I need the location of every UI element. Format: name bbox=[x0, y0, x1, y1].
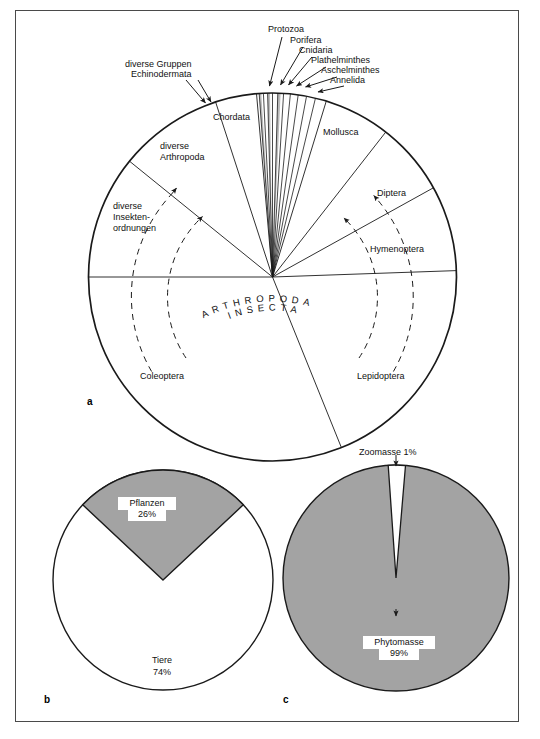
label-diverse-arthropoda-line1: diverse bbox=[160, 141, 189, 152]
label-hymenoptera: Hymenoptera bbox=[370, 244, 424, 255]
figure-root: ARTHROPODA INSECTA bbox=[0, 0, 540, 739]
label-diverse-insekten-line1: diverse bbox=[113, 201, 142, 212]
label-lepidoptera: Lepidoptera bbox=[357, 371, 405, 382]
label-annelida: Annelida bbox=[330, 75, 365, 86]
label-tiere-name: Tiere bbox=[140, 655, 184, 666]
label-diptera: Diptera bbox=[377, 188, 406, 199]
label-phytomasse-value: 99% bbox=[379, 647, 419, 660]
label-diverse-insekten-line3: ordnungen bbox=[113, 223, 156, 234]
label-mollusca: Mollusca bbox=[323, 127, 359, 138]
label-diverse-insekten-line2: Insekten- bbox=[113, 212, 150, 223]
label-coleoptera: Coleoptera bbox=[140, 371, 184, 382]
panel-label-b: b bbox=[44, 694, 50, 705]
label-tiere-value: 74% bbox=[144, 667, 180, 678]
label-pflanzen-value: 26% bbox=[128, 508, 166, 521]
label-diverse-arthropoda-line2: Arthropoda bbox=[160, 152, 205, 163]
label-zoomasse: Zoomasse 1% bbox=[359, 447, 417, 458]
panel-label-c: c bbox=[283, 694, 289, 705]
label-protozoa: Protozoa bbox=[268, 24, 304, 35]
label-chordata: Chordata bbox=[213, 112, 250, 123]
label-echinodermata: Echinodermata bbox=[131, 69, 192, 80]
figure-vector-layer: ARTHROPODA INSECTA bbox=[0, 0, 540, 739]
panel-label-a: a bbox=[87, 396, 93, 407]
